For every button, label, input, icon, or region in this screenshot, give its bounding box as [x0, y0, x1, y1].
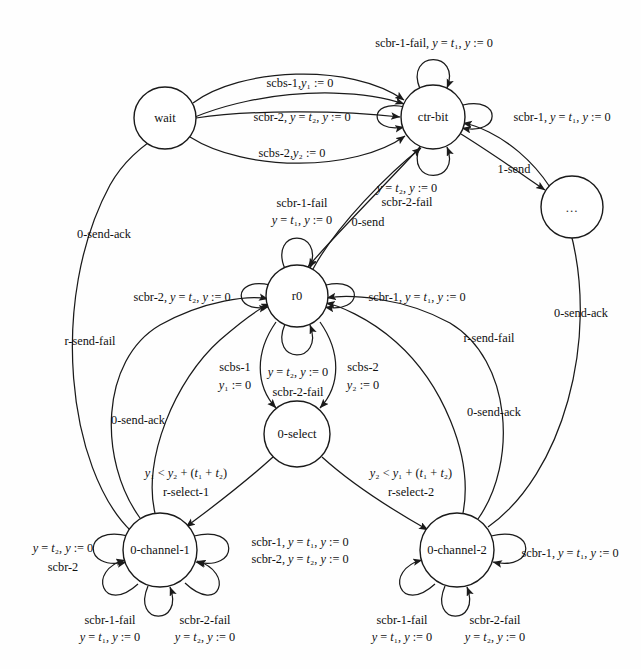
label-ch2-self-right: scbr-1, y = t₁, y := 0 — [521, 546, 618, 560]
label-r0-ctrbit-0send: 0-send — [352, 215, 385, 229]
state-label-0-channel-2: 0-channel-2 — [427, 543, 487, 557]
label-ctrbit-self-bottom-line2: scbr-2-fail — [382, 195, 434, 209]
label-ch1-ctrbit-sendack: 0-send-ack — [77, 227, 132, 241]
label-ch1-self-right-line1: scbr-1, y = t₁, y := 0 — [251, 535, 348, 549]
label-ctrbit-self-top: scbr-1-fail, y = t₁, y := 0 — [375, 36, 493, 50]
state-0-channel-1[interactable]: 0-channel-1 — [123, 513, 197, 587]
label-ctrbit-self-bottom-line1: y = t₂, y := 0 — [375, 181, 438, 195]
edge-ch1-self-right — [194, 534, 229, 563]
label-ch2-r0-sendack: 0-send-ack — [467, 405, 522, 419]
label-ch1-self-br-line2: y = t₂, y := 0 — [173, 630, 236, 644]
label-r0-select-right-line2: y₂ := 0 — [345, 378, 379, 392]
label-r0-self-left: scbr-2, y = t₂, y := 0 — [133, 290, 230, 304]
label-wait-ctrbit-mid: scbr-2, y = t₂, y := 0 — [253, 110, 350, 124]
label-ch2-self-bl-line1: scbr-1-fail — [377, 613, 429, 627]
state-machine-diagram: wait ctr-bit ... r0 0-select 0-channel-1 — [0, 0, 641, 669]
label-ch1-r0-rsendfail: r-send-fail — [65, 334, 117, 348]
state-ctr-bit[interactable]: ctr-bit — [401, 85, 465, 149]
state-label-0-channel-1: 0-channel-1 — [130, 543, 190, 557]
label-r0-self-top-line2: y = t₁, y := 0 — [270, 213, 333, 227]
label-select-ch1-line1: y₁ < y₂ + (t₁ + t₂) — [143, 466, 227, 480]
label-r0-self-right: scbr-1, y = t₁, y := 0 — [368, 290, 465, 304]
state-ellipsis[interactable]: ... — [541, 176, 603, 238]
figure-canvas: wait ctr-bit ... r0 0-select 0-channel-1 — [0, 0, 641, 669]
label-ch1-self-br-line1: scbr-2-fail — [180, 613, 232, 627]
label-ch1-self-bl-line2: y = t₁, y := 0 — [78, 630, 141, 644]
transition-labels: scbs-1,y₁ := 0 scbr-2, y = t₂, y := 0 sc… — [31, 36, 619, 644]
label-wait-ctrbit-top: scbs-1,y₁ := 0 — [267, 76, 334, 90]
state-nodes: wait ctr-bit ... r0 0-select 0-channel-1 — [123, 85, 603, 587]
label-ch2-self-br-line2: y = t₂, y := 0 — [463, 630, 526, 644]
edge-ctrbit-self-bottom — [417, 146, 449, 175]
edge-ch1-self-bottom — [145, 586, 173, 616]
state-0-select[interactable]: 0-select — [264, 401, 330, 467]
label-ctrbit-self-right: scbr-1, y = t₁, y := 0 — [513, 110, 610, 124]
state-label-ellipsis: ... — [566, 200, 579, 215]
state-label-wait: wait — [154, 111, 176, 125]
state-label-r0: r0 — [292, 289, 302, 303]
label-ch1-self-bl-line1: scbr-1-fail — [85, 613, 137, 627]
edge-ctrbit-self-right — [462, 104, 492, 129]
state-0-channel-2[interactable]: 0-channel-2 — [420, 513, 494, 587]
label-ch1-self-left-line1: y = t₂, y := 0 — [31, 541, 94, 555]
label-r0-self-top-line1: scbr-1-fail — [277, 196, 329, 210]
label-select-ch2-line2: r-select-2 — [388, 485, 434, 499]
state-label-0-select: 0-select — [278, 427, 317, 441]
state-wait[interactable]: wait — [134, 87, 196, 149]
state-r0[interactable]: r0 — [266, 265, 328, 327]
label-ch2-self-br-line1: scbr-2-fail — [470, 613, 522, 627]
label-ctrbit-ellipsis: 1-send — [498, 162, 531, 176]
label-select-self-line2: scbr-2-fail — [273, 385, 325, 399]
label-ch1-r0-sendack: 0-send-ack — [111, 413, 166, 427]
label-r0-select-right-line1: scbs-2 — [347, 360, 378, 374]
label-r0-select-left-line1: scbs-1 — [219, 360, 250, 374]
label-ch1-self-right-line2: scbr-2, y = t₂, y := 0 — [251, 552, 348, 566]
edge-ch1-r0-sendack — [152, 304, 270, 513]
label-select-ch1-line2: r-select-1 — [163, 485, 209, 499]
label-select-ch2-line1: y₂ < y₁ + (t₁ + t₂) — [368, 466, 452, 480]
edge-r0-self-bottom — [282, 324, 313, 355]
edge-ch2-self-bottom — [442, 586, 470, 616]
edge-ch1-ctrbit-sendack — [72, 93, 404, 531]
label-ch1-self-left-line2: scbr-2 — [48, 560, 78, 574]
label-select-self-line1: y = t₂, y := 0 — [266, 365, 329, 379]
label-ch2-self-bl-line2: y = t₁, y := 0 — [370, 630, 433, 644]
label-wait-ctrbit-bottom: scbs-2,y₂ := 0 — [259, 146, 326, 160]
state-label-ctr-bit: ctr-bit — [418, 110, 449, 124]
edge-ch2-r0-sendack — [326, 303, 465, 513]
label-r0-select-left-line2: y₁ := 0 — [217, 378, 251, 392]
label-ch2-ctrbit-sendack: 0-send-ack — [554, 306, 609, 320]
label-ch2-r0-rsendfail: r-send-fail — [464, 331, 516, 345]
